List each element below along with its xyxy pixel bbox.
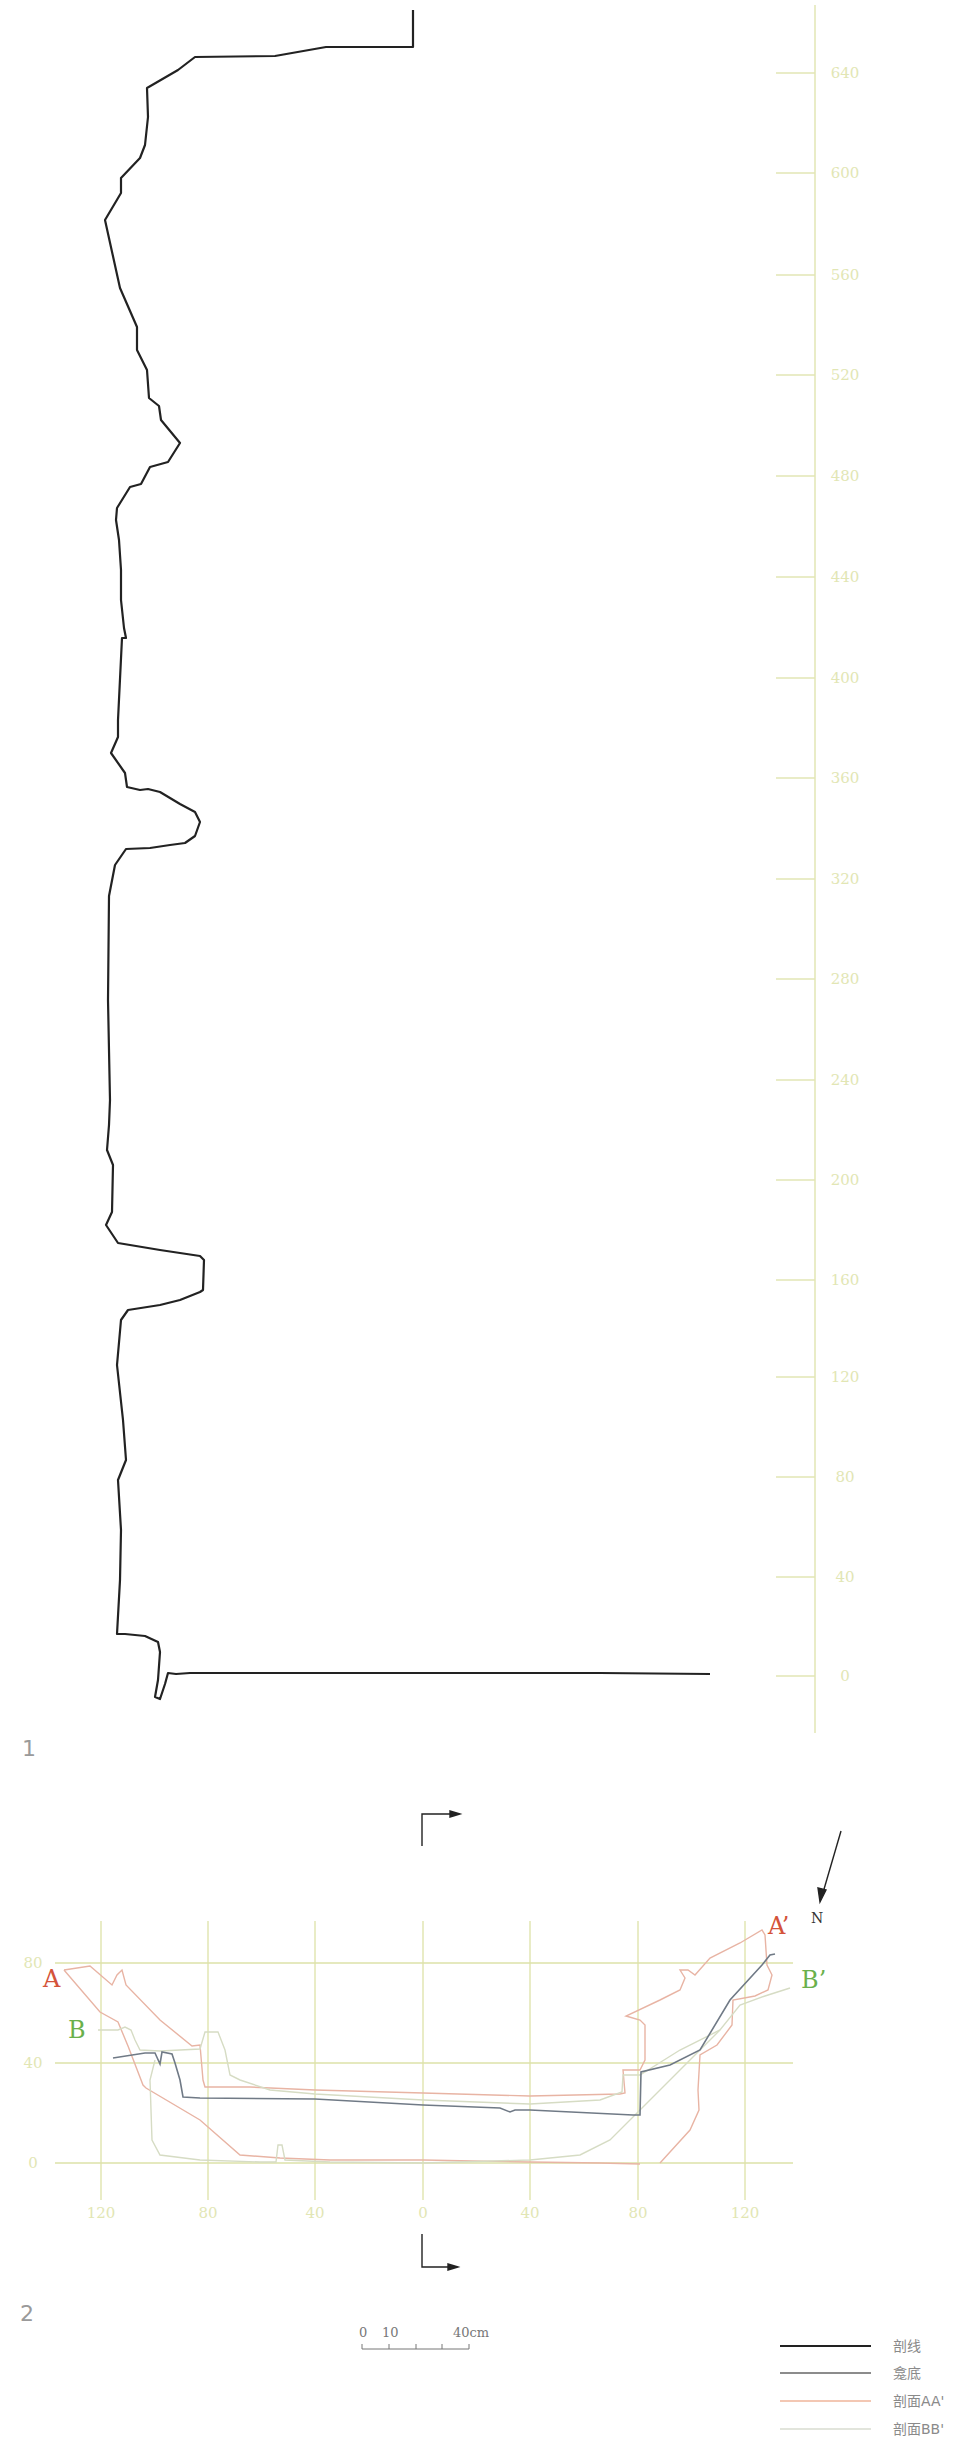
tick-label: 440 xyxy=(831,568,860,586)
niche-bottom-line xyxy=(113,1954,775,2115)
figure1-label: 1 xyxy=(22,1736,36,1761)
tick-label: 520 xyxy=(831,366,860,384)
figure1-axis xyxy=(776,5,815,1733)
figure1-axis-labels: 640 600 560 520 480 440 400 360 320 280 … xyxy=(831,64,860,1685)
tick-label: 200 xyxy=(831,1171,860,1189)
legend: 剖线 龛底 剖面AA' 剖面BB' xyxy=(780,2338,944,2437)
scale-bar: 0 10 40cm xyxy=(359,2325,489,2349)
north-arrow-icon xyxy=(818,1831,841,1902)
figure1-profile-line xyxy=(105,10,710,1699)
figure2-x-labels: 120 80 40 0 40 80 120 xyxy=(87,2204,760,2222)
legend-label: 剖面AA' xyxy=(893,2393,944,2409)
tick-label: 360 xyxy=(831,769,860,787)
tick-label: 40 xyxy=(23,2054,42,2072)
tick-label: 120 xyxy=(87,2204,116,2222)
scale-label-10: 10 xyxy=(382,2325,399,2340)
tick-label: 400 xyxy=(831,669,860,687)
tick-label: 480 xyxy=(831,467,860,485)
tick-label: 160 xyxy=(831,1271,860,1289)
tick-label: 120 xyxy=(731,2204,760,2222)
legend-label: 剖面BB' xyxy=(893,2421,944,2437)
north-label: N xyxy=(811,1910,823,1926)
tick-label: 80 xyxy=(628,2204,647,2222)
legend-label: 剖线 xyxy=(893,2338,921,2354)
figure2-grid xyxy=(55,1921,793,2200)
drawing-canvas: 640 600 560 520 480 440 400 360 320 280 … xyxy=(0,0,963,2457)
section-bb-curves xyxy=(98,1988,790,2163)
tick-label: 320 xyxy=(831,870,860,888)
section-marker-top xyxy=(422,1811,460,1846)
tick-label: 0 xyxy=(28,2154,38,2172)
tick-label: 40 xyxy=(835,1568,854,1586)
tick-label: 80 xyxy=(23,1954,42,1972)
tick-label: 240 xyxy=(831,1071,860,1089)
section-aa-curves xyxy=(64,1930,772,2164)
tick-label: 600 xyxy=(831,164,860,182)
point-label-b: B xyxy=(68,2016,86,2044)
tick-label: 80 xyxy=(835,1468,854,1486)
tick-label: 0 xyxy=(418,2204,428,2222)
tick-label: 0 xyxy=(840,1667,850,1685)
tick-label: 80 xyxy=(198,2204,217,2222)
figure2-label: 2 xyxy=(20,2301,34,2326)
tick-label: 640 xyxy=(831,64,860,82)
tick-label: 560 xyxy=(831,266,860,284)
point-label-a-prime: A’ xyxy=(767,1912,789,1940)
tick-label: 120 xyxy=(831,1368,860,1386)
point-label-b-prime: B’ xyxy=(801,1966,826,1994)
scale-label-0: 0 xyxy=(359,2325,367,2340)
tick-label: 40 xyxy=(305,2204,324,2222)
tick-label: 40 xyxy=(520,2204,539,2222)
scale-label-40cm: 40cm xyxy=(453,2325,489,2340)
figure2-y-labels: 80 40 0 xyxy=(23,1954,42,2172)
tick-label: 280 xyxy=(831,970,860,988)
section-marker-bottom xyxy=(422,2234,458,2270)
point-label-a: A xyxy=(42,1965,61,1993)
legend-label: 龛底 xyxy=(893,2365,921,2381)
